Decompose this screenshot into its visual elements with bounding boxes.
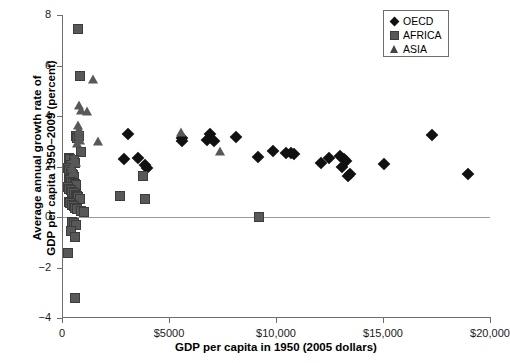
data-point-asia (72, 138, 82, 147)
legend-item-label: AFRICA (403, 29, 442, 41)
y-tick-mark (57, 15, 63, 16)
legend-item-label: OECD (403, 15, 433, 27)
data-point-oecd (426, 129, 439, 142)
data-point-oecd (252, 151, 265, 164)
legend-item-label: ASIA (403, 43, 427, 55)
data-point-africa (70, 232, 80, 242)
x-tick-label: $10,000 (256, 327, 296, 339)
x-tick-label: 0 (59, 327, 65, 339)
y-axis-title: Average annual growth rate of GDP per ca… (30, 38, 58, 278)
data-point-oecd (378, 158, 391, 171)
data-point-asia (93, 136, 103, 145)
plot-area (62, 15, 490, 318)
data-point-asia (82, 107, 92, 116)
data-point-africa (70, 293, 80, 303)
data-point-asia (68, 168, 78, 177)
x-axis-title: GDP per capita in 1950 (2005 dollars) (62, 341, 490, 353)
y-axis-title-line2: GDP per capita 1950–2009 (percent) (44, 38, 58, 278)
data-point-oecd (229, 130, 242, 143)
data-point-africa (254, 212, 264, 222)
x-tick-mark (490, 317, 491, 323)
data-point-africa (75, 71, 85, 81)
zero-reference-line (62, 217, 490, 218)
legend-item-oecd[interactable]: OECD (388, 14, 444, 28)
x-tick-mark (169, 317, 170, 323)
x-tick-label: $20,000 (470, 327, 510, 339)
diamond-icon (388, 18, 400, 25)
data-point-oecd (117, 153, 130, 166)
legend-item-asia[interactable]: ASIA (388, 42, 444, 56)
y-axis-title-line1: Average annual growth rate of (30, 38, 44, 278)
x-tick-label: $15,000 (363, 327, 403, 339)
legend: OECDAFRICAASIA (383, 10, 449, 57)
x-tick-mark (383, 317, 384, 323)
y-tick-label: 8 (21, 8, 51, 20)
data-point-africa (140, 194, 150, 204)
y-tick-label: −4 (21, 311, 51, 323)
data-point-africa (138, 171, 148, 181)
x-tick-label: $5000 (154, 327, 185, 339)
square-icon (388, 31, 400, 40)
data-point-asia (176, 128, 186, 137)
data-point-africa (79, 207, 89, 217)
legend-item-africa[interactable]: AFRICA (388, 28, 444, 42)
scatter-chart-figure: −4−202468 0$5000$10,000$15,000$20,000 GD… (0, 0, 510, 363)
data-point-oecd (461, 168, 474, 181)
data-point-africa (73, 24, 83, 34)
x-tick-mark (276, 317, 277, 323)
data-point-asia (88, 75, 98, 84)
triangle-icon (388, 45, 400, 53)
data-point-oecd (266, 144, 279, 157)
data-point-africa (63, 248, 73, 258)
data-point-asia (215, 146, 225, 155)
x-tick-mark (62, 317, 63, 323)
data-point-africa (115, 191, 125, 201)
data-point-oecd (122, 128, 135, 141)
